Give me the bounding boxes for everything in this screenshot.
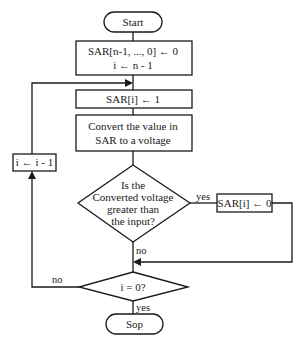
convert-box: Convert the value in SAR to a voltage: [76, 115, 192, 151]
arrowhead-return: [133, 258, 141, 266]
edge-label-compare-no: no: [136, 245, 147, 256]
compare-line1: Is the: [121, 179, 145, 191]
init-line2: i ← n - 1: [113, 59, 153, 71]
compare-decision: Is the Converted voltage greater than th…: [78, 165, 190, 242]
check-zero-decision: i = 0?: [79, 272, 188, 301]
stop-terminal: Sop: [106, 314, 163, 334]
stop-label: Sop: [126, 318, 144, 330]
set-bit-label: SAR[i] ← 1: [106, 93, 160, 105]
convert-line2: SAR to a voltage: [95, 134, 171, 146]
arrowhead-loop: [125, 79, 133, 87]
clear-bit-box: SAR[i] ← 0: [217, 194, 272, 212]
init-line1: SAR[n-1, ..., 0] ← 0: [88, 45, 179, 57]
decrement-box: i ← i - 1: [13, 154, 56, 171]
arrowhead-decrement: [28, 171, 36, 179]
clear-bit-label: SAR[i] ← 0: [218, 197, 272, 209]
check-zero-label: i = 0?: [120, 281, 145, 293]
init-box: SAR[n-1, ..., 0] ← 0 i ← n - 1: [76, 41, 192, 75]
edge-label-check-no: no: [52, 274, 63, 285]
set-bit-box: SAR[i] ← 1: [76, 90, 192, 108]
start-terminal: Start: [104, 12, 162, 32]
decrement-label: i ← i - 1: [16, 156, 53, 168]
compare-line3: greater than: [107, 203, 160, 215]
edge-label-check-yes: yes: [136, 302, 150, 313]
convert-line1: Convert the value in: [88, 120, 178, 132]
compare-line2: Converted voltage: [93, 191, 174, 203]
flowchart: Start SAR[n-1, ..., 0] ← 0 i ← n - 1 SAR…: [0, 0, 304, 346]
start-label: Start: [123, 16, 144, 28]
edge-check-no: [32, 176, 79, 287]
compare-line4: the input?: [111, 215, 155, 227]
edge-label-compare-yes: yes: [196, 191, 210, 202]
